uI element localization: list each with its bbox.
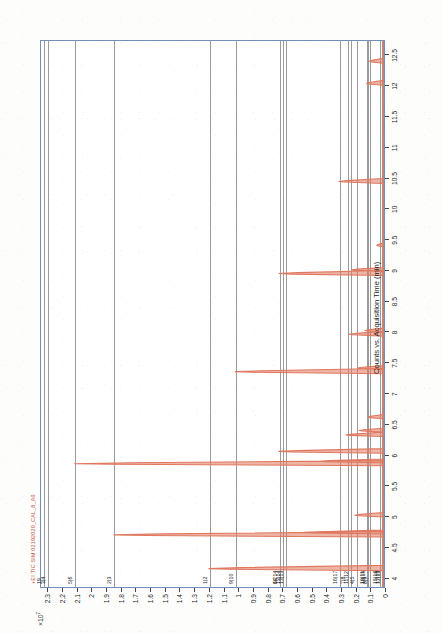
y-axis-tick-label: 1.3 bbox=[191, 594, 198, 626]
y-axis-tick bbox=[341, 588, 342, 592]
y-axis-tick bbox=[253, 588, 254, 592]
x-axis-tick bbox=[385, 147, 389, 148]
y-axis-tick bbox=[165, 588, 166, 592]
y-axis-tick bbox=[135, 588, 136, 592]
x-axis-tick-label: 12.5 bbox=[391, 49, 398, 62]
x-axis-tick-label: 10.5 bbox=[391, 172, 398, 185]
y-axis-tick-label: 0 bbox=[382, 594, 389, 626]
y-axis-tick-label: 2 bbox=[88, 594, 95, 626]
x-axis-tick bbox=[385, 85, 389, 86]
y-axis-tick-label: 1 bbox=[235, 594, 242, 626]
y-axis-tick bbox=[268, 588, 269, 592]
y-axis-tick bbox=[297, 588, 298, 592]
tic-trace bbox=[41, 41, 384, 587]
x-axis-tick bbox=[385, 547, 389, 548]
peak-group-label: 17|18 bbox=[374, 571, 380, 584]
y-axis-tick bbox=[326, 588, 327, 592]
plot-area bbox=[40, 40, 385, 588]
x-axis-tick bbox=[385, 208, 389, 209]
peak-group-label: 19 bbox=[36, 578, 42, 584]
y-axis-tick bbox=[150, 588, 151, 592]
x-axis-tick-label: 4.5 bbox=[391, 543, 398, 552]
y-axis-tick bbox=[106, 588, 107, 592]
x-axis-tick-label: 8.5 bbox=[391, 297, 398, 306]
x-axis-tick-label: 11 bbox=[391, 144, 398, 151]
x-axis-tick-label: 11.5 bbox=[391, 111, 398, 123]
y-axis-tick bbox=[356, 588, 357, 592]
x-axis-tick-label: 9 bbox=[391, 269, 398, 273]
x-axis-tick-label: 4 bbox=[391, 577, 398, 581]
peak-group-label: 4|5 bbox=[349, 577, 355, 584]
x-axis-tick bbox=[385, 578, 389, 579]
x-axis-tick bbox=[385, 331, 389, 332]
x-axis-tick bbox=[385, 362, 389, 363]
x-axis-tick bbox=[385, 516, 389, 517]
chromatogram-rotated-canvas: +EI TIC SIM 02192020_CAL_8_A0 44.555.566… bbox=[0, 0, 443, 634]
scanned-page-background: +EI TIC SIM 02192020_CAL_8_A0 44.555.566… bbox=[0, 0, 443, 634]
x-axis-tick bbox=[385, 116, 389, 117]
x-axis-tick-label: 10 bbox=[391, 206, 398, 213]
y-axis-tick-label: 0.6 bbox=[293, 594, 300, 626]
y-axis-tick bbox=[47, 588, 48, 592]
y-axis-exponent-power: 7 bbox=[36, 612, 41, 615]
y-axis-tick-label: 1.1 bbox=[220, 594, 227, 626]
peak-group-label: 1|2 bbox=[202, 577, 208, 584]
y-axis-tick-label: 2.3 bbox=[44, 594, 51, 626]
y-axis-exponent-base: ×10 bbox=[37, 614, 44, 626]
x-axis-tick-label: 9.5 bbox=[391, 236, 398, 245]
y-axis-tick-label: 1.6 bbox=[147, 594, 154, 626]
y-axis-tick-label: 1.7 bbox=[132, 594, 139, 626]
peak-group-label: 16|17 bbox=[332, 571, 338, 584]
x-axis-tick bbox=[385, 270, 389, 271]
y-axis-tick bbox=[224, 588, 225, 592]
x-axis-tick bbox=[385, 54, 389, 55]
y-axis-tick bbox=[370, 588, 371, 592]
x-axis-tick-label: 12 bbox=[391, 83, 398, 90]
y-axis-tick-label: 2.2 bbox=[59, 594, 66, 626]
y-axis-tick bbox=[62, 588, 63, 592]
y-axis-tick-label: 1.2 bbox=[205, 594, 212, 626]
y-axis-tick-label: 0.1 bbox=[367, 594, 374, 626]
x-axis-tick bbox=[385, 301, 389, 302]
x-axis-title: Counts vs. Acquisition Time (min) bbox=[372, 262, 381, 374]
peak-group-label: 13|14 bbox=[275, 571, 281, 584]
y-axis-tick bbox=[77, 588, 78, 592]
peak-group-label: 11|12 bbox=[343, 571, 349, 584]
peak-group-label: 18|19 bbox=[360, 571, 366, 584]
y-axis-tick bbox=[179, 588, 180, 592]
x-axis-tick-label: 8 bbox=[391, 331, 398, 335]
x-axis-tick-label: 5 bbox=[391, 515, 398, 519]
peak-group-label: 5|6 bbox=[67, 577, 73, 584]
y-axis-tick bbox=[209, 588, 210, 592]
y-axis-tick bbox=[194, 588, 195, 592]
y-axis-tick bbox=[312, 588, 313, 592]
y-axis-exponent-label: ×107 bbox=[36, 612, 44, 626]
x-axis-tick-label: 5.5 bbox=[391, 482, 398, 491]
y-axis-tick-label: 0.5 bbox=[308, 594, 315, 626]
y-axis-tick bbox=[282, 588, 283, 592]
x-axis-tick bbox=[385, 485, 389, 486]
y-axis-tick-label: 2.1 bbox=[73, 594, 80, 626]
y-axis-tick-label: 1.4 bbox=[176, 594, 183, 626]
x-axis-tick-label: 6.5 bbox=[391, 420, 398, 429]
y-axis-tick-label: 1.8 bbox=[117, 594, 124, 626]
y-axis-tick bbox=[121, 588, 122, 592]
x-axis-tick bbox=[385, 393, 389, 394]
y-axis-tick bbox=[238, 588, 239, 592]
x-axis-tick bbox=[385, 178, 389, 179]
x-axis-tick-label: 6 bbox=[391, 454, 398, 458]
y-axis-tick bbox=[91, 588, 92, 592]
peak-group-label: 9|10 bbox=[228, 574, 234, 584]
x-axis-tick-label: 7.5 bbox=[391, 359, 398, 368]
peak-group-label: 2|3 bbox=[106, 577, 112, 584]
x-axis-tick-label: 7 bbox=[391, 392, 398, 396]
x-axis-tick bbox=[385, 455, 389, 456]
x-axis-tick bbox=[385, 239, 389, 240]
y-axis-tick-label: 0.3 bbox=[337, 594, 344, 626]
x-axis-tick bbox=[385, 424, 389, 425]
y-axis-tick-label: 0.2 bbox=[352, 594, 359, 626]
y-axis-tick bbox=[385, 588, 386, 592]
y-axis-tick-label: 0.4 bbox=[323, 594, 330, 626]
y-axis-tick-label: 0.9 bbox=[249, 594, 256, 626]
y-axis-tick-label: 1.5 bbox=[161, 594, 168, 626]
